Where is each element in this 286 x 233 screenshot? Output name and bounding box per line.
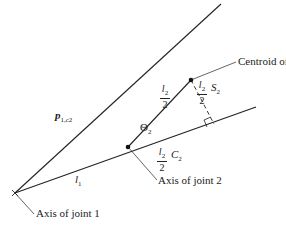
axis-joint1-label: Axis of joint 1 bbox=[36, 208, 100, 219]
half-l2-s2-fraction: l2 2 bbox=[197, 80, 207, 106]
half-l2-link-fraction: l2 2 bbox=[160, 84, 170, 110]
c2-label: C2 bbox=[171, 149, 182, 163]
joint1-leader-line bbox=[15, 193, 34, 214]
s2-label: S2 bbox=[211, 82, 220, 96]
link-geometry-diagram bbox=[0, 0, 286, 233]
p-vector-line bbox=[15, 4, 221, 193]
joint2-leader-line bbox=[128, 147, 157, 180]
p-vector-label: p1,c2 bbox=[55, 110, 72, 124]
centroid-leader-line bbox=[191, 62, 236, 80]
theta2-label: Θ2 bbox=[140, 122, 151, 136]
centroid-label: Centroid of link 2 bbox=[238, 56, 286, 67]
l1-label: l1 bbox=[75, 174, 82, 188]
axis-joint2-label: Axis of joint 2 bbox=[158, 175, 222, 186]
half-l2-c2-fraction: l2 2 bbox=[157, 147, 167, 173]
